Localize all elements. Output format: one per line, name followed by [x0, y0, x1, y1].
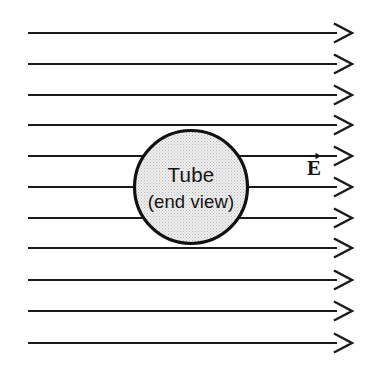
field-diagram-canvas: Tube (end view) E	[0, 0, 375, 370]
tube-circle	[135, 131, 248, 244]
electric-field-symbol: E	[307, 153, 321, 180]
electric-field-letter: E	[307, 156, 321, 180]
field-diagram-figure: Tube (end view) E	[0, 0, 375, 370]
tube-label-primary: Tube	[168, 163, 215, 186]
tube-label-secondary: (end view)	[148, 191, 234, 212]
